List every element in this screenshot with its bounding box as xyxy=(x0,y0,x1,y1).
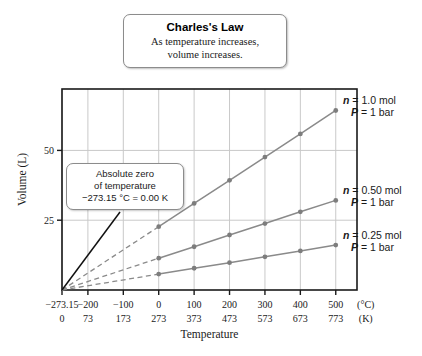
chart-title: Charles's Law xyxy=(130,20,280,34)
series-label-amount: n = 1.0 mol xyxy=(343,94,396,106)
x-tick-label-celsius: 0 xyxy=(156,299,161,310)
absolute-zero-line3: −273.15 °C = 0.00 K xyxy=(71,192,179,204)
x-tick-label-celsius: 500 xyxy=(328,299,343,310)
x-tick-label-kelvin: 773 xyxy=(328,313,343,324)
x-tick-label-celsius: 400 xyxy=(293,299,308,310)
x-tick-label-kelvin: 673 xyxy=(293,313,308,324)
extrapolation-lines xyxy=(62,227,159,290)
series-label-amount: n = 0.25 mol xyxy=(343,229,402,241)
series-label-pressure: P = 1 bar xyxy=(351,196,394,208)
y-tick-label: 25 xyxy=(44,215,54,226)
x-tick-label-celsius: 100 xyxy=(187,299,202,310)
x-tick-label-kelvin: 0 xyxy=(60,313,65,324)
x-tick-label-celsius: −100 xyxy=(113,299,134,310)
chart-subtitle-line1: As temperature increases, xyxy=(151,36,259,47)
x-tick-label-kelvin: 273 xyxy=(151,313,166,324)
data-lines xyxy=(159,110,336,274)
x-tick-label-kelvin: 373 xyxy=(187,313,202,324)
x-tick-label-kelvin: 473 xyxy=(222,313,237,324)
series-labels: n = 1.0 molP = 1 barn = 0.50 molP = 1 ba… xyxy=(343,94,402,253)
absolute-zero-line1: Absolute zero xyxy=(71,168,179,180)
x-tick-label-celsius: 200 xyxy=(222,299,237,310)
y-tick-label: 50 xyxy=(44,145,54,156)
series-label-amount: n = 0.50 mol xyxy=(343,184,402,196)
celsius-unit-label: (°C) xyxy=(357,299,374,311)
kelvin-unit-label: (K) xyxy=(359,313,373,325)
x-axis-title: Temperature xyxy=(181,328,239,341)
y-axis-title: Volume (L) xyxy=(16,153,29,206)
x-tick-label-celsius: −200 xyxy=(78,299,99,310)
series-label-pressure: P = 1 bar xyxy=(351,106,394,118)
x-tick-label-kelvin: 73 xyxy=(83,313,93,324)
chart-subtitle: As temperature increases, volume increas… xyxy=(130,36,280,61)
x-tick-label-celsius: −273.15 xyxy=(45,299,78,310)
title-callout: Charles's Law As temperature increases, … xyxy=(123,14,287,68)
charles-law-figure: 2550−273.150−20073−100173027310037320047… xyxy=(0,0,422,356)
x-tick-label-kelvin: 173 xyxy=(116,313,131,324)
annotation-leader-line xyxy=(62,212,120,290)
x-tick-label-celsius: 300 xyxy=(257,299,272,310)
absolute-zero-callout: Absolute zero of temperature −273.15 °C … xyxy=(66,163,184,210)
absolute-zero-line2: of temperature xyxy=(71,180,179,192)
x-tick-label-kelvin: 573 xyxy=(257,313,272,324)
chart-subtitle-line2: volume increases. xyxy=(167,49,242,60)
series-label-pressure: P = 1 bar xyxy=(351,241,394,253)
